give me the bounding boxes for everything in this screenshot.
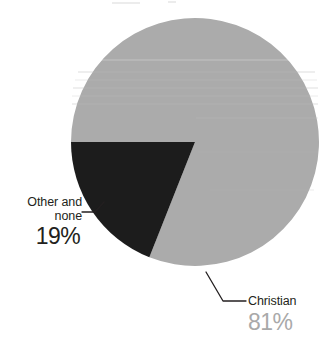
slice-value-other-and-none: 19% — [4, 224, 82, 249]
slice-label-other-and-none: Other and none 19% — [4, 196, 82, 249]
slice-value-christian: 81% — [248, 310, 332, 335]
top-edge-artifacts — [112, 2, 176, 3]
pie-chart-figure: Other and none 19% Christian 81% — [0, 0, 336, 352]
leader-line-christian — [206, 272, 246, 301]
slice-label-christian: Christian 81% — [248, 291, 332, 334]
slice-label-christian-text: Christian — [248, 294, 296, 308]
slice-label-other-and-none-line1: Other and — [4, 196, 82, 210]
slice-label-other-and-none-line2: none — [4, 210, 82, 224]
